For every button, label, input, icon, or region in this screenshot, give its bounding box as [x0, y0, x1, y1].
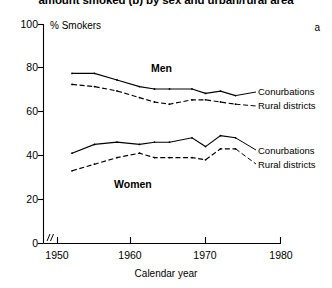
series-line-men-conurbations: [72, 73, 236, 95]
leader-men-rural: [236, 104, 257, 106]
y-tick-marks: [38, 25, 44, 244]
leader-women-conurbations: [236, 138, 257, 150]
series-line-women-conurbations: [72, 136, 236, 154]
plot-canvas: [0, 0, 332, 288]
axis-break-icon: [47, 234, 54, 241]
leader-men-conurbations: [236, 92, 257, 96]
series-markers-women-rural: [71, 148, 236, 172]
series-line-women-rural: [72, 149, 236, 171]
leader-women-rural: [236, 149, 257, 164]
figure-smoking-prevalence: amount smoked (b) by sex and urban/rural…: [0, 0, 332, 288]
series-line-men-rural: [72, 84, 236, 104]
x-tick-marks: [58, 237, 281, 244]
